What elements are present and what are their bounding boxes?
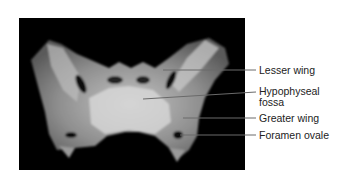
anatomy-figure: Lesser wing Hypophyseal fossa Greater wi… <box>0 0 350 177</box>
label-foramen-ovale: Foramen ovale <box>259 130 329 141</box>
label-fossa: fossa <box>259 97 284 108</box>
leader-line-hypophyseal-fossa <box>143 92 256 99</box>
label-lesser-wing: Lesser wing <box>259 65 315 76</box>
label-greater-wing: Greater wing <box>259 113 319 124</box>
